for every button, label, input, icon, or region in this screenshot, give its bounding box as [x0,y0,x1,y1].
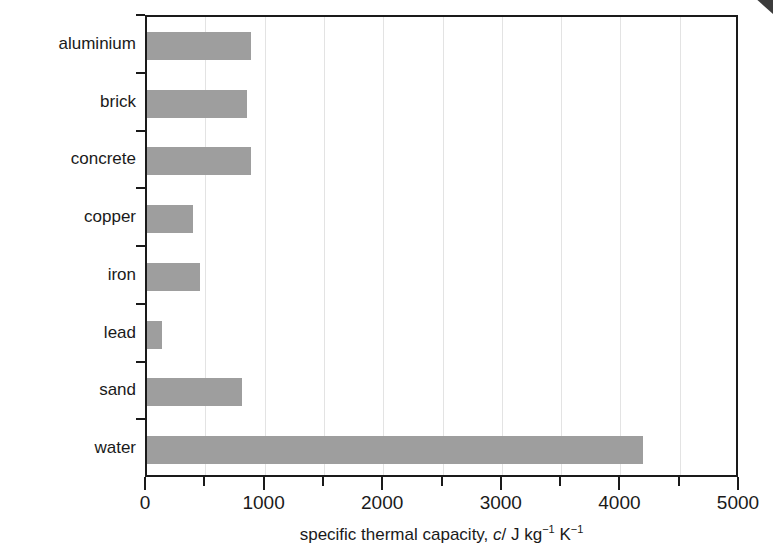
x-axis-tick-label: 1000 [242,492,284,514]
bar-chart: aluminiumbrickconcretecopperironleadsand… [0,0,773,556]
x-axis-title-exponent-1: −1 [542,523,555,535]
bar-water [147,436,643,464]
y-axis-tick [136,245,145,247]
bars-layer [147,17,736,475]
x-axis-title-exponent-2: −1 [571,523,584,535]
x-axis-minor-tick [559,477,561,486]
x-axis-major-tick [500,477,502,490]
x-axis-minor-tick [678,477,680,486]
bar-aluminium [147,32,251,60]
x-axis-tick-label: 0 [140,492,151,514]
x-axis-major-tick [618,477,620,490]
x-axis-title-lead: specific thermal capacity, [300,525,493,544]
y-axis-tick [136,303,145,305]
y-axis-tick [136,130,145,132]
scan-artifact-icon [747,0,773,14]
bar-iron [147,263,200,291]
y-axis-tick [136,187,145,189]
plot-area [145,15,738,477]
bar-sand [147,378,242,406]
x-axis-tick-label: 5000 [717,492,759,514]
y-axis-label-aluminium: aluminium [0,34,136,54]
x-axis-major-tick [144,477,146,490]
x-axis-tick-label: 3000 [480,492,522,514]
y-axis-tick [136,72,145,74]
x-axis-minor-tick [203,477,205,486]
y-axis-tick [136,14,145,16]
x-axis-major-tick [263,477,265,490]
y-axis-label-iron: iron [0,265,136,285]
bar-concrete [147,147,251,175]
y-axis-label-lead: lead [0,323,136,343]
bar-brick [147,90,247,118]
y-axis-label-brick: brick [0,92,136,112]
x-axis-title: specific thermal capacity, c/ J kg−1 K−1 [145,524,738,546]
bar-lead [147,321,162,349]
y-axis-category-labels: aluminiumbrickconcretecopperironleadsand… [0,15,136,477]
y-axis-label-concrete: concrete [0,149,136,169]
x-axis-tick-label: 2000 [361,492,403,514]
y-axis-tick [136,418,145,420]
x-axis-major-tick [381,477,383,490]
x-axis-title-kelvin: K [555,525,571,544]
x-axis-minor-tick [322,477,324,486]
x-axis-title-symbol: c [493,525,502,544]
y-axis-label-sand: sand [0,380,136,400]
x-axis-major-tick [737,477,739,490]
y-axis-label-water: water [0,438,136,458]
y-axis-label-copper: copper [0,207,136,227]
bar-copper [147,205,193,233]
x-axis-minor-tick [441,477,443,486]
x-axis-title-unit-slash: / J kg [502,525,543,544]
x-axis-tick-label: 4000 [598,492,640,514]
y-axis-tick [136,361,145,363]
